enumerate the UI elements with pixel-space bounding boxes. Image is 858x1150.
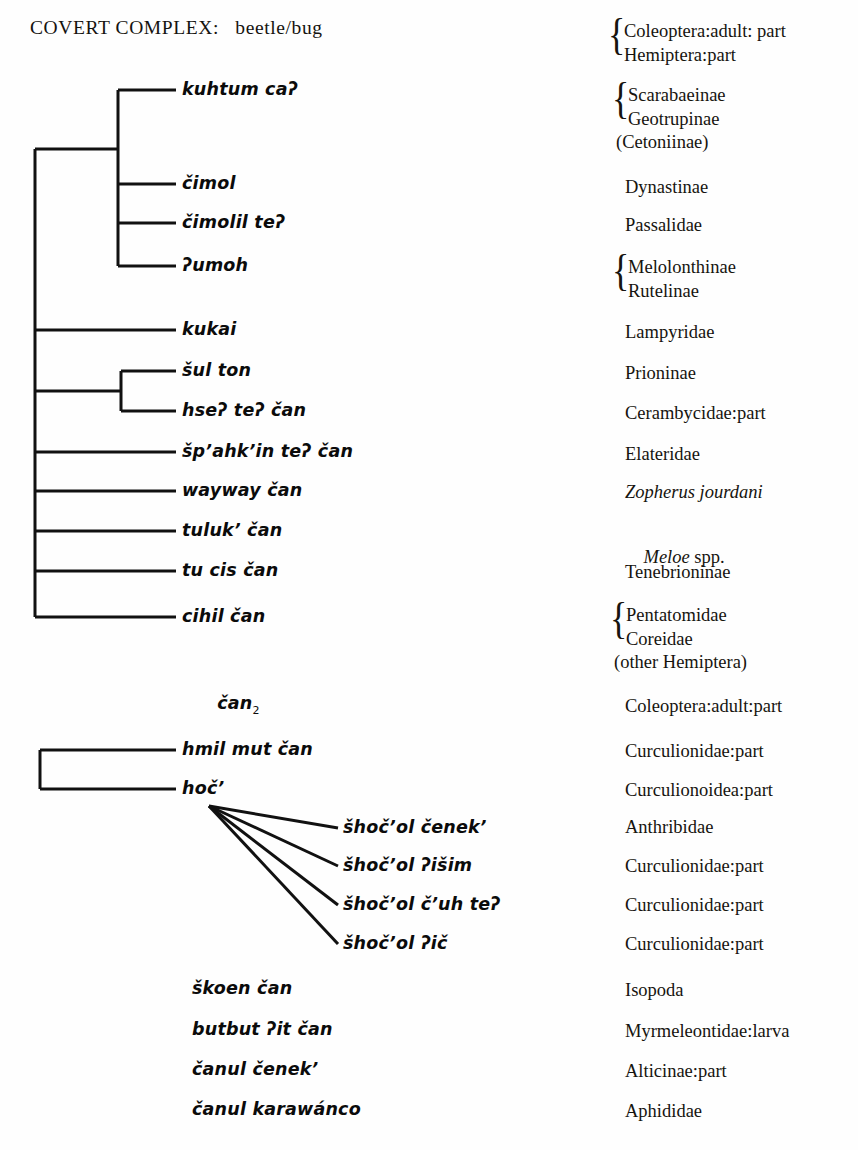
term-can2[interactable]: čan2	[192, 677, 259, 733]
sci-curculionidae-ic: Curculionidae:part	[625, 933, 764, 957]
term-cihil-can[interactable]: cihil čan	[182, 608, 265, 626]
term-kukai[interactable]: kukai	[182, 321, 237, 339]
term-shocol-cuh-te[interactable]: šhoč’ol č’uh teʔ	[343, 896, 501, 914]
sci-group-coleoptera-hemiptera: { Coleoptera:adult: part Hemiptera:part	[608, 20, 786, 67]
sci-lampyridae: Lampyridae	[625, 321, 714, 345]
term-hse-te-can[interactable]: hseʔ teʔ čan	[182, 402, 306, 420]
sci-zopherus-jourdani: Zopherus jourdani	[625, 481, 763, 505]
term-butbut-it-can[interactable]: butbut ʔit čan	[192, 1021, 333, 1039]
term-tuluk-can[interactable]: tuluk’ čan	[182, 522, 282, 540]
sci-cerambycidae: Cerambycidae:part	[625, 402, 766, 426]
sci-curculionidae-cuhte: Curculionidae:part	[625, 894, 764, 918]
curly-brace-icon: {	[608, 16, 619, 55]
term-can2-subscript: 2	[252, 703, 259, 716]
sci-elateridae: Elateridae	[625, 443, 700, 467]
term-skoen-can[interactable]: škoen čan	[192, 980, 292, 998]
term-can2-base: čan	[217, 693, 252, 713]
tree-fan-shocol-cenek	[209, 806, 338, 828]
term-hoc[interactable]: hoč’	[182, 780, 224, 798]
sci-dynastinae: Dynastinae	[625, 176, 708, 200]
sci-lines-cihil: Pentatomidae Coreidae	[626, 604, 727, 651]
term-shocol-cenek[interactable]: šhoč’ol čenek’	[343, 819, 487, 837]
sci-lines-umoh: Melolonthinae Rutelinae	[628, 256, 736, 303]
term-sul-ton[interactable]: šul ton	[182, 362, 251, 380]
sci-lines-top: Coleoptera:adult: part Hemiptera:part	[624, 20, 786, 67]
sci-curculionoidea-hoc: Curculionoidea:part	[625, 779, 773, 803]
term-canul-karawanco[interactable]: čanul karawánco	[192, 1101, 361, 1119]
term-canul-cenek[interactable]: čanul čenek’	[192, 1061, 318, 1079]
sci-cetoniinae: (Cetoniinae)	[616, 131, 708, 155]
tree-fan-shocol-isim	[209, 806, 338, 866]
page-title: COVERT COMPLEX: beetle/bug	[30, 17, 323, 39]
curly-brace-icon: {	[612, 252, 623, 291]
term-cimolil-te[interactable]: čimolil teʔ	[182, 214, 285, 232]
sci-anthribidae: Anthribidae	[625, 816, 713, 840]
sci-myrmeleontidae-larva: Myrmeleontidae:larva	[625, 1020, 789, 1044]
term-spahkin-te-can[interactable]: šp’ahk’in teʔ čan	[182, 443, 353, 461]
tree-fan-shocol-cuhte	[209, 806, 338, 905]
sci-alticinae-part: Alticinae:part	[625, 1060, 727, 1084]
sci-coleoptera-adult-part: Coleoptera:adult:part	[625, 695, 782, 719]
sci-curculionidae-isim: Curculionidae:part	[625, 855, 764, 879]
sci-tenebrioninae: Tenebrioninae	[625, 561, 731, 585]
sci-isopoda: Isopoda	[625, 979, 684, 1003]
curly-brace-icon: {	[610, 600, 621, 639]
term-wayway-can[interactable]: wayway čan	[182, 482, 302, 500]
sci-passalidae: Passalidae	[625, 214, 702, 238]
sci-other-hemiptera: (other Hemiptera)	[614, 651, 747, 675]
sci-prioninae: Prioninae	[625, 362, 696, 386]
tree-fan-shocol-ic	[209, 806, 338, 944]
term-shocol-isim[interactable]: šhoč’ol ʔišim	[343, 857, 472, 875]
sci-curculionidae-hmil: Curculionidae:part	[625, 740, 764, 764]
curly-brace-icon: {	[612, 80, 623, 119]
sci-group-scarabaeinae: { Scarabaeinae Geotrupinae	[612, 84, 726, 131]
sci-aphididae: Aphididae	[625, 1100, 702, 1124]
term-tu-cis-can[interactable]: tu cis čan	[182, 562, 278, 580]
term-umoh[interactable]: ʔumoh	[182, 257, 248, 275]
figure-page: COVERT COMPLEX: beetle/bug	[0, 0, 858, 1150]
sci-group-pentatomidae: { Pentatomidae Coreidae	[610, 604, 727, 651]
term-shocol-ic[interactable]: šhoč’ol ʔič	[343, 935, 448, 953]
term-hmil-mut-can[interactable]: hmil mut čan	[182, 741, 313, 759]
sci-lines-kuhtum: Scarabaeinae Geotrupinae	[628, 84, 726, 131]
sci-group-melolonthinae: { Melolonthinae Rutelinae	[612, 256, 736, 303]
term-kuhtum-ca[interactable]: kuhtum caʔ	[182, 81, 298, 99]
term-cimol[interactable]: čimol	[182, 175, 236, 193]
